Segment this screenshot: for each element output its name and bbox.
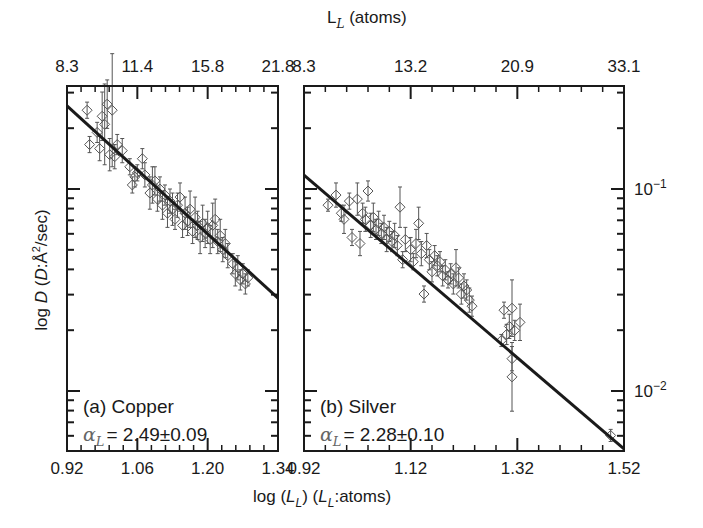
data-point [499,302,509,318]
top-x-tick-label: 21.8 [261,57,294,76]
data-point [363,181,373,201]
figure: LL (atoms) log D (D:Å2/sec) log (LL) (LL… [0,0,703,528]
top-x-tick-label: 15.8 [191,57,224,76]
data-point [454,268,464,288]
x-tick-label: 0.92 [287,459,320,478]
x-tick-label: 1.12 [394,459,427,478]
panel-copper-fit-line [67,106,278,298]
top-axis-title: LL (atoms) [327,8,407,31]
data-point [190,197,200,237]
data-point [82,102,92,118]
data-point [414,207,424,239]
data-point [137,149,147,169]
data-point [395,187,405,227]
panel-copper-alpha: αL= 2.49±0.09 [83,423,207,449]
left-axis-title: log D (D:Å2/sec) [30,209,51,330]
right-y-tick-label: 10−2 [634,379,667,401]
top-x-tick-label: 20.9 [501,57,534,76]
x-tick-label: 1.20 [191,459,224,478]
data-point [427,262,437,282]
top-x-tick-label: 8.3 [292,57,316,76]
top-x-tick-label: 13.2 [394,57,427,76]
panel-copper-label: (a) Copper [83,396,174,417]
data-point [323,199,333,211]
panel-copper-data-points [82,54,253,294]
panel-silver-label: (b) Silver [320,396,397,417]
right-y-tick-label: 10−1 [634,177,667,199]
top-x-tick-label: 8.3 [55,57,79,76]
panel-silver-alpha: αL= 2.28±0.10 [320,423,444,449]
top-x-tick-label: 11.4 [121,57,153,76]
x-tick-label: 1.52 [607,459,640,478]
x-tick-label: 0.92 [50,459,83,478]
data-point [515,304,525,340]
data-point [102,80,112,128]
x-tick-label: 1.06 [121,459,154,478]
data-point [422,233,432,257]
data-point [344,193,354,209]
data-point [419,286,429,302]
panel-copper: 0.928.31.0611.41.2015.81.3421.8 (a) Copp… [50,54,294,478]
data-point [85,136,95,152]
panel-silver: 0.928.31.1213.21.3220.91.5233.110−110−2 … [287,57,666,478]
data-point [400,227,410,251]
bottom-axis-title: log (LL) (LL:atoms) [253,487,391,510]
x-tick-label: 1.32 [501,459,534,478]
top-x-tick-label: 33.1 [607,57,640,76]
data-point [355,231,365,255]
data-point [467,296,477,316]
